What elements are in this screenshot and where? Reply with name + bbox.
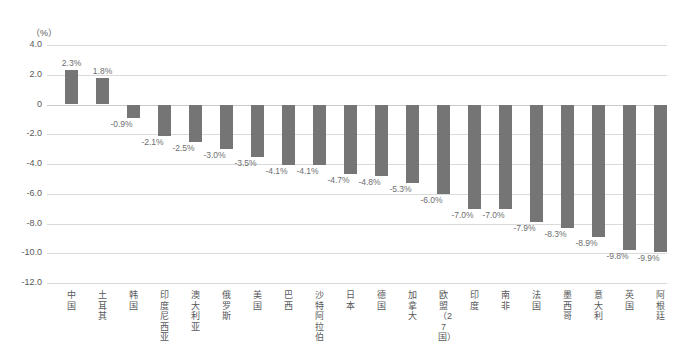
bar — [158, 105, 171, 136]
bar — [96, 78, 109, 105]
category-label: 澳大利亚 — [190, 290, 201, 332]
gridline — [47, 253, 667, 254]
data-label: -7.0% — [448, 210, 478, 220]
category-label: 沙特阿拉伯 — [314, 290, 325, 343]
bar — [654, 105, 667, 252]
bar-chart: （%） 4.02.00-2.0-4.0-6.0-8.0-10.0-12.0 2.… — [0, 0, 673, 350]
y-axis-tick: -4.0 — [0, 158, 42, 168]
bar — [437, 105, 450, 194]
data-label: -4.8% — [355, 177, 385, 187]
gridline — [47, 105, 667, 106]
y-axis-tick: -2.0 — [0, 128, 42, 138]
bar — [530, 105, 543, 223]
category-label: 墨西哥 — [562, 290, 573, 322]
bar — [189, 105, 202, 142]
data-label: -3.5% — [231, 158, 261, 168]
data-label: -4.7% — [324, 175, 354, 185]
category-label: 南非 — [500, 290, 511, 311]
data-label: 2.3% — [57, 58, 87, 68]
category-label: 欧盟（27国） — [438, 290, 449, 343]
bar — [375, 105, 388, 176]
category-label: 阿根廷 — [655, 290, 666, 322]
bar — [406, 105, 419, 184]
data-label: 1.8% — [88, 66, 118, 76]
y-axis-tick: -8.0 — [0, 218, 42, 228]
gridline — [47, 194, 667, 195]
gridline — [47, 134, 667, 135]
bar — [344, 105, 357, 175]
y-axis-tick: 2.0 — [0, 69, 42, 79]
category-label: 土耳其 — [97, 290, 108, 322]
bar — [468, 105, 481, 209]
data-label: -2.1% — [138, 137, 168, 147]
data-label: -7.9% — [510, 223, 540, 233]
bar — [561, 105, 574, 228]
category-label: 韩国 — [128, 290, 139, 311]
data-label: -9.9% — [634, 253, 664, 263]
category-label: 印度 — [469, 290, 480, 311]
category-label: 印度尼西亚 — [159, 290, 170, 343]
data-label: -5.3% — [386, 184, 416, 194]
y-axis-tick: 4.0 — [0, 39, 42, 49]
category-label: 巴西 — [283, 290, 294, 311]
gridline — [47, 75, 667, 76]
category-label: 德国 — [376, 290, 387, 311]
y-axis-tick: -12.0 — [0, 277, 42, 287]
bar — [313, 105, 326, 166]
y-axis-unit-label: （%） — [31, 26, 57, 39]
category-label: 法国 — [531, 290, 542, 311]
category-label: 美国 — [252, 290, 263, 311]
y-axis-tick: 0 — [0, 99, 42, 109]
y-axis-tick: -10.0 — [0, 247, 42, 257]
data-label: -4.1% — [293, 166, 323, 176]
category-label: 意大利 — [593, 290, 604, 322]
gridline — [47, 224, 667, 225]
bar — [251, 105, 264, 157]
bar — [220, 105, 233, 150]
bar — [623, 105, 636, 251]
category-label: 中国 — [66, 290, 77, 311]
bar — [592, 105, 605, 237]
category-label: 俄罗斯 — [221, 290, 232, 322]
data-label: -9.8% — [603, 251, 633, 261]
data-label: -7.0% — [479, 210, 509, 220]
data-label: -6.0% — [417, 195, 447, 205]
data-label: -4.1% — [262, 166, 292, 176]
gridline — [47, 164, 667, 165]
data-label: -8.3% — [541, 229, 571, 239]
gridline — [47, 283, 667, 284]
bar — [65, 70, 78, 104]
data-label: -2.5% — [169, 143, 199, 153]
data-label: -3.0% — [200, 150, 230, 160]
gridline — [47, 45, 667, 46]
bar — [282, 105, 295, 166]
bar — [127, 105, 140, 118]
category-label: 加拿大 — [407, 290, 418, 322]
category-label: 日本 — [345, 290, 356, 311]
bar — [499, 105, 512, 209]
category-label: 英国 — [624, 290, 635, 311]
y-axis-tick: -6.0 — [0, 188, 42, 198]
data-label: -0.9% — [107, 119, 137, 129]
data-label: -8.9% — [572, 238, 602, 248]
